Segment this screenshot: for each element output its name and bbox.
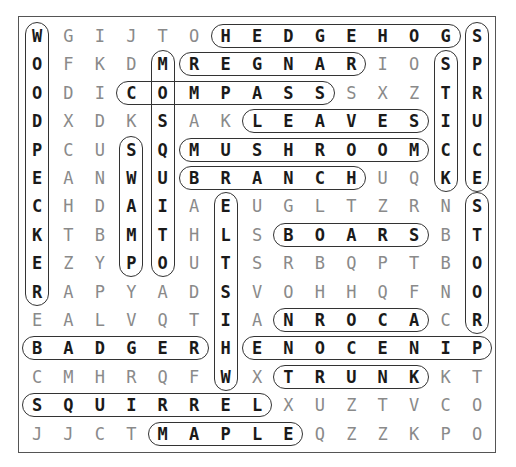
grid-cell[interactable]: Q — [151, 365, 175, 389]
grid-cell[interactable]: E — [214, 194, 238, 218]
grid-cell[interactable]: Q — [151, 138, 175, 162]
grid-cell[interactable]: U — [88, 393, 112, 417]
grid-cell[interactable]: P — [119, 251, 143, 275]
grid-cell[interactable]: N — [402, 336, 426, 360]
grid-cell[interactable]: O — [402, 24, 426, 48]
grid-cell[interactable]: C — [371, 308, 395, 332]
grid-cell[interactable]: X — [56, 109, 80, 133]
grid-cell[interactable]: K — [214, 109, 238, 133]
grid-cell[interactable]: T — [434, 81, 458, 105]
grid-cell[interactable]: I — [119, 393, 143, 417]
grid-cell[interactable]: S — [245, 223, 269, 247]
grid-cell[interactable]: P — [465, 52, 489, 76]
grid-cell[interactable]: U — [371, 166, 395, 190]
grid-cell[interactable]: H — [339, 166, 363, 190]
grid-cell[interactable]: E — [276, 422, 300, 446]
grid-cell[interactable]: Q — [151, 308, 175, 332]
grid-cell[interactable]: U — [182, 251, 206, 275]
grid-cell[interactable]: C — [434, 393, 458, 417]
grid-cell[interactable]: L — [245, 422, 269, 446]
grid-cell[interactable]: D — [276, 24, 300, 48]
grid-cell[interactable]: F — [182, 365, 206, 389]
grid-cell[interactable]: V — [119, 308, 143, 332]
grid-cell[interactable]: E — [25, 166, 49, 190]
grid-cell[interactable]: O — [151, 251, 175, 275]
grid-cell[interactable]: A — [182, 194, 206, 218]
grid-cell[interactable]: Z — [371, 422, 395, 446]
grid-cell[interactable]: O — [151, 81, 175, 105]
grid-cell[interactable]: N — [276, 52, 300, 76]
grid-cell[interactable]: A — [308, 52, 332, 76]
grid-cell[interactable]: P — [371, 251, 395, 275]
grid-cell[interactable]: E — [151, 336, 175, 360]
grid-cell[interactable]: K — [25, 223, 49, 247]
grid-cell[interactable]: H — [182, 223, 206, 247]
grid-cell[interactable]: C — [56, 138, 80, 162]
grid-cell[interactable]: I — [214, 308, 238, 332]
grid-cell[interactable]: W — [25, 24, 49, 48]
grid-cell[interactable]: G — [245, 52, 269, 76]
grid-cell[interactable]: R — [308, 308, 332, 332]
grid-cell[interactable]: U — [214, 138, 238, 162]
grid-cell[interactable]: E — [371, 336, 395, 360]
grid-cell[interactable]: U — [245, 194, 269, 218]
grid-cell[interactable]: H — [88, 365, 112, 389]
grid-cell[interactable]: A — [56, 336, 80, 360]
grid-cell[interactable]: R — [276, 251, 300, 275]
grid-cell[interactable]: K — [119, 109, 143, 133]
grid-cell[interactable]: O — [465, 251, 489, 275]
grid-cell[interactable]: H — [276, 138, 300, 162]
grid-cell[interactable]: T — [214, 251, 238, 275]
grid-cell[interactable]: R — [339, 52, 363, 76]
grid-cell[interactable]: R — [214, 166, 238, 190]
grid-cell[interactable]: Q — [56, 393, 80, 417]
grid-cell[interactable]: C — [308, 166, 332, 190]
grid-cell[interactable]: O — [308, 336, 332, 360]
grid-cell[interactable]: M — [119, 223, 143, 247]
grid-cell[interactable]: I — [434, 109, 458, 133]
grid-cell[interactable]: N — [276, 308, 300, 332]
grid-cell[interactable]: P — [88, 280, 112, 304]
grid-cell[interactable]: E — [214, 393, 238, 417]
grid-cell[interactable]: P — [214, 81, 238, 105]
grid-cell[interactable]: B — [276, 223, 300, 247]
grid-cell[interactable]: C — [434, 138, 458, 162]
grid-cell[interactable]: T — [402, 251, 426, 275]
grid-cell[interactable]: A — [245, 81, 269, 105]
grid-cell[interactable]: A — [339, 223, 363, 247]
grid-cell[interactable]: S — [245, 251, 269, 275]
grid-cell[interactable]: V — [402, 393, 426, 417]
grid-cell[interactable]: O — [182, 24, 206, 48]
grid-cell[interactable]: E — [276, 109, 300, 133]
grid-cell[interactable]: T — [465, 365, 489, 389]
grid-cell[interactable]: J — [119, 24, 143, 48]
grid-cell[interactable]: B — [88, 223, 112, 247]
grid-cell[interactable]: H — [214, 24, 238, 48]
grid-cell[interactable]: I — [434, 336, 458, 360]
grid-cell[interactable]: G — [276, 194, 300, 218]
grid-cell[interactable]: O — [371, 138, 395, 162]
grid-cell[interactable]: W — [214, 365, 238, 389]
grid-cell[interactable]: R — [371, 223, 395, 247]
grid-cell[interactable]: S — [465, 24, 489, 48]
grid-cell[interactable]: O — [402, 52, 426, 76]
grid-cell[interactable]: M — [56, 365, 80, 389]
grid-cell[interactable]: S — [402, 223, 426, 247]
grid-cell[interactable]: E — [245, 24, 269, 48]
grid-cell[interactable]: Y — [119, 280, 143, 304]
grid-cell[interactable]: W — [119, 166, 143, 190]
grid-cell[interactable]: T — [151, 223, 175, 247]
grid-cell[interactable]: A — [308, 109, 332, 133]
grid-cell[interactable]: H — [214, 336, 238, 360]
grid-cell[interactable]: I — [88, 81, 112, 105]
grid-cell[interactable]: A — [245, 166, 269, 190]
grid-cell[interactable]: Z — [371, 194, 395, 218]
grid-cell[interactable]: X — [245, 365, 269, 389]
grid-cell[interactable]: U — [465, 109, 489, 133]
grid-cell[interactable]: V — [339, 109, 363, 133]
grid-cell[interactable]: T — [119, 422, 143, 446]
grid-cell[interactable]: C — [25, 365, 49, 389]
grid-cell[interactable]: U — [339, 365, 363, 389]
grid-cell[interactable]: T — [339, 194, 363, 218]
grid-cell[interactable]: L — [88, 308, 112, 332]
